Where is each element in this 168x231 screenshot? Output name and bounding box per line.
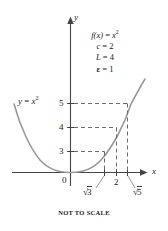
- parameter-eq: =: [100, 64, 109, 74]
- y-axis-arrowhead: [67, 17, 73, 25]
- parameter-row-epsilon: ε = 1: [74, 64, 136, 75]
- parameter-lhs: f(x): [91, 30, 103, 40]
- parameter-eq: =: [103, 30, 112, 40]
- leader-sqrt3: [96, 176, 104, 188]
- origin-label: 0: [62, 176, 67, 185]
- x-tick-label-2: 2: [114, 178, 119, 187]
- parameter-rhs: 2: [109, 41, 113, 51]
- y-tick-label-4: 4: [59, 123, 64, 132]
- parameter-rhs: 4: [110, 52, 114, 62]
- figure-caption: NOT TO SCALE: [0, 209, 168, 216]
- vertical-guide-lines: [105, 104, 128, 171]
- horizontal-guide-lines: [74, 104, 128, 152]
- figure-container: y x f(x) = x2 c = 2 L = 4 ε = 1 y = x2 5…: [0, 0, 168, 231]
- x-axis-label: x: [152, 167, 156, 176]
- parameter-eq: =: [100, 41, 109, 51]
- parameter-row-c: c = 2: [74, 41, 136, 52]
- y-axis-label: y: [74, 13, 78, 22]
- radicand: 5: [137, 186, 143, 197]
- x-tick-label-sqrt3: √3: [83, 188, 92, 197]
- radicand: 3: [87, 186, 93, 197]
- curve-label-exponent: 2: [36, 95, 39, 101]
- y-axis: [67, 17, 73, 187]
- parameter-block: f(x) = x2 c = 2 L = 4 ε = 1: [74, 30, 136, 75]
- curve-label: y = x2: [18, 97, 39, 106]
- parameter-rhs: 1: [109, 64, 113, 74]
- parameter-eq: =: [101, 52, 110, 62]
- y-tick-label-5: 5: [59, 99, 64, 108]
- parameter-row-function: f(x) = x2: [74, 30, 136, 41]
- parameter-row-L: L = 4: [74, 52, 136, 63]
- y-tick-label-3: 3: [59, 147, 64, 156]
- parabola-curve: [14, 79, 145, 173]
- x-tick-label-sqrt5: √5: [133, 188, 142, 197]
- curve-label-eq: =: [22, 96, 32, 106]
- x-axis-arrowhead: [140, 169, 148, 175]
- parameter-exp: 2: [116, 29, 119, 35]
